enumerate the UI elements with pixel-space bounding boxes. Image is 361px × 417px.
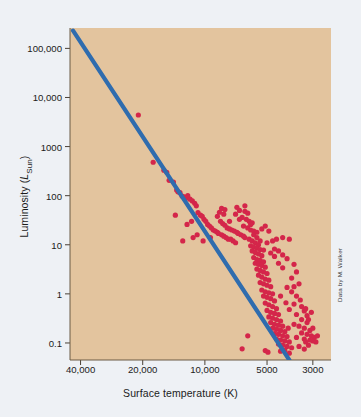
data-point	[284, 256, 289, 261]
data-point	[266, 278, 271, 283]
data-point	[261, 247, 266, 252]
y-axis-title-subscript: Sun	[25, 159, 34, 174]
x-tick-label: 10,000	[190, 364, 219, 375]
data-point	[304, 313, 309, 318]
y-axis-title-close: )	[18, 156, 30, 160]
data-point	[287, 339, 292, 344]
data-point	[280, 265, 285, 270]
data-point	[272, 254, 277, 259]
data-point	[294, 335, 299, 340]
data-point	[291, 322, 296, 327]
data-point	[245, 211, 250, 216]
data-point	[302, 347, 307, 352]
data-point	[227, 219, 232, 224]
y-tick-label: 10	[51, 239, 62, 250]
data-point	[251, 232, 256, 237]
data-point	[191, 235, 196, 240]
data-point	[289, 345, 294, 350]
data-point	[315, 333, 320, 338]
y-axis-title-wrapper: Luminosity (LSun)	[14, 87, 33, 307]
data-point	[233, 240, 238, 245]
data-point	[248, 222, 253, 227]
data-point	[215, 214, 220, 219]
data-point	[289, 275, 294, 280]
x-tick-label: 3000	[302, 364, 323, 375]
data-point	[299, 317, 304, 322]
data-point	[313, 339, 318, 344]
data-point	[309, 310, 314, 315]
data-point	[299, 330, 304, 335]
data-point	[240, 346, 245, 351]
data-point	[296, 324, 301, 329]
data-point	[221, 212, 226, 217]
data-point	[303, 306, 308, 311]
data-point	[287, 237, 292, 242]
data-point	[173, 213, 178, 218]
data-point	[283, 300, 288, 305]
data-point	[263, 265, 268, 270]
y-axis-title: Luminosity (LSun)	[18, 156, 33, 238]
data-point	[287, 307, 292, 312]
data-point	[294, 312, 299, 317]
data-point	[274, 306, 279, 311]
data-point	[184, 222, 189, 227]
data-point	[286, 326, 291, 331]
y-tick-label: 1000	[41, 141, 62, 152]
hr-diagram-figure: 100,00010,00010001001010.1 40,00020,0001…	[0, 0, 361, 417]
data-point	[276, 248, 281, 253]
data-point	[194, 203, 199, 208]
data-point	[289, 289, 294, 294]
data-point	[291, 301, 296, 306]
data-point	[259, 253, 264, 258]
data-point	[278, 294, 283, 299]
data-point	[302, 326, 307, 331]
data-point	[245, 333, 250, 338]
data-point	[296, 344, 301, 349]
data-credit: Data by M. Walker	[336, 212, 343, 302]
y-axis-title-main: Luminosity (	[18, 180, 30, 238]
x-tick-label: 40,000	[66, 364, 95, 375]
y-axis-title-symbol: L	[18, 174, 30, 180]
data-point	[280, 252, 285, 257]
y-tick-label: 10,000	[33, 92, 62, 103]
data-point	[268, 284, 273, 289]
data-point	[242, 203, 247, 208]
plot-background	[70, 28, 331, 360]
y-tick-label: 100	[46, 190, 62, 201]
data-point	[272, 298, 277, 303]
y-tick-label: 1	[57, 288, 62, 299]
credit-wrapper: Data by M. Walker	[336, 212, 343, 302]
data-point	[237, 208, 242, 213]
plot-canvas	[0, 0, 361, 417]
data-point	[233, 212, 238, 217]
data-point	[270, 291, 275, 296]
data-point	[259, 226, 264, 231]
data-point	[284, 285, 289, 290]
data-point	[291, 262, 296, 267]
data-point	[303, 339, 308, 344]
data-point	[291, 284, 296, 289]
data-point	[136, 112, 141, 117]
data-point	[264, 240, 269, 245]
x-tick-label: 5000	[256, 364, 277, 375]
data-point	[276, 261, 281, 266]
data-point	[298, 297, 303, 302]
data-point	[276, 312, 281, 317]
y-tick-label: 100,000	[27, 43, 62, 54]
data-point	[270, 238, 275, 243]
plot-background-group	[70, 28, 331, 360]
data-point	[294, 294, 299, 299]
data-point	[237, 217, 242, 222]
data-point	[264, 271, 269, 276]
data-point	[151, 160, 156, 165]
data-point	[180, 238, 185, 243]
data-point	[200, 238, 205, 243]
y-tick-label: 0.1	[49, 337, 62, 348]
data-point	[296, 281, 301, 286]
data-point	[310, 326, 315, 331]
data-point	[294, 269, 299, 274]
data-point	[189, 219, 194, 224]
x-tick-label: 20,000	[128, 364, 157, 375]
data-point	[265, 350, 270, 355]
data-point	[266, 228, 271, 233]
